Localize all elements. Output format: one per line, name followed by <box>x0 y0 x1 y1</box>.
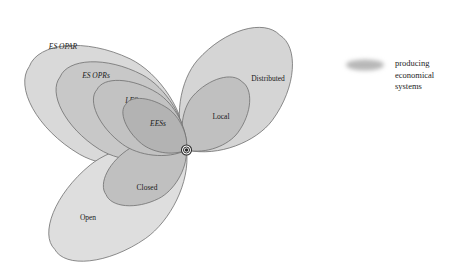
producing-economical-systems-swatch <box>346 60 384 71</box>
origin-node-ring-2 <box>185 148 188 151</box>
petal-label-distributed: Distributed <box>251 74 285 83</box>
petal-label-closed: Closed <box>137 183 158 192</box>
petal-diagram: ES OPARDistributedOpenES OPRsLocalClosed… <box>0 0 460 264</box>
petal-label-es-opar: ES OPAR <box>48 42 78 51</box>
legend-line-0: producing <box>395 58 434 70</box>
legend-swatch-group <box>346 60 384 71</box>
legend-line-2: systems <box>395 81 434 93</box>
petal-layer: ES OPARDistributedOpenES OPRsLocalClosed… <box>25 27 293 261</box>
petal-label-open: Open <box>80 213 96 222</box>
legend-caption: producingeconomicalsystems <box>395 58 434 93</box>
legend-line-1: economical <box>395 70 434 82</box>
petal-label-es-oprs: ES OPRs <box>81 71 110 80</box>
figure-canvas: ES OPARDistributedOpenES OPRsLocalClosed… <box>0 0 460 264</box>
origin-node <box>182 145 192 155</box>
petal-label-eess: EESs <box>149 119 166 128</box>
petal-label-local: Local <box>212 112 229 121</box>
